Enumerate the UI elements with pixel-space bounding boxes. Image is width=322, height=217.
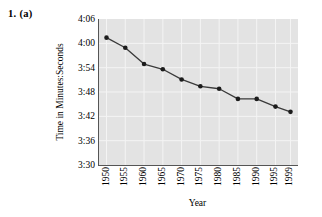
x-axis-tick-cell: 1980 [211, 167, 225, 199]
x-axis-tick-cell: 1975 [192, 167, 206, 199]
y-axis-tick-label: 4:06 [66, 14, 95, 24]
x-axis-tick-label: 1995 [269, 167, 279, 186]
data-point-marker [254, 97, 259, 102]
x-axis-tick-label: 1985 [232, 167, 242, 186]
figure-panel: 1. (a) Time in Minutes:Seconds 4:064:003… [0, 0, 322, 217]
chart-svg [99, 19, 298, 165]
x-axis-tick-cell: 1960 [136, 167, 150, 199]
y-axis-tick-label: 3:54 [66, 63, 95, 73]
x-axis-tick-cell: 1955 [117, 167, 131, 199]
x-axis-tick-cell: 1965 [155, 167, 169, 199]
data-point-marker [179, 77, 184, 82]
data-point-marker [236, 97, 241, 102]
plot-area [98, 19, 298, 166]
x-axis-tick-label: 1955 [119, 167, 129, 186]
x-axis-tick-label: 1975 [194, 167, 204, 186]
x-axis-tick-label: 1990 [251, 167, 261, 186]
x-axis-tick-cell: 1970 [174, 167, 188, 199]
data-point-marker [161, 67, 166, 72]
y-axis-title: Time in Minutes:Seconds [55, 43, 65, 140]
data-point-marker [104, 35, 109, 40]
x-axis-tick-cell: 1990 [249, 167, 263, 199]
x-axis-tick-label: 1960 [138, 167, 148, 186]
x-axis-tick-labels: 1950195519601965197019751980198519901995… [98, 167, 297, 199]
data-series-line [107, 38, 291, 112]
x-axis-tick-label: 1999 [284, 167, 294, 186]
y-axis-tick-label: 3:42 [66, 111, 95, 121]
x-axis-tick-cell: 1985 [230, 167, 244, 199]
x-axis-title: Year [98, 198, 297, 208]
y-axis-tick-labels: 4:064:003:543:483:423:363:30 [66, 12, 95, 172]
x-axis-tick-label: 1950 [101, 167, 111, 186]
x-axis-tick-cell: 1999 [282, 167, 296, 199]
data-point-marker [142, 62, 147, 67]
x-axis-tick-label: 1980 [213, 167, 223, 186]
x-axis-tick-label: 1965 [157, 167, 167, 186]
y-axis-tick-label: 3:30 [66, 160, 95, 170]
x-axis-tick-cell: 1950 [99, 167, 113, 199]
data-point-marker [273, 104, 278, 109]
x-axis-tick-cell: 1995 [267, 167, 281, 199]
y-axis-tick-label: 3:48 [66, 87, 95, 97]
data-point-marker [288, 110, 293, 115]
y-axis-tick-label: 3:36 [66, 136, 95, 146]
data-point-marker [123, 45, 128, 50]
x-axis-tick-label: 1970 [176, 167, 186, 186]
y-axis-tick-label: 4:00 [66, 38, 95, 48]
problem-number-label: 1. (a) [8, 8, 33, 19]
data-point-marker [217, 86, 222, 91]
horizontal-gridlines [99, 43, 298, 140]
data-point-marker [198, 84, 203, 89]
